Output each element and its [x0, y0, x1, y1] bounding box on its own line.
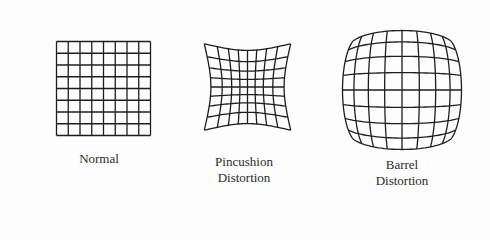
barrel-label-line2: Distortion — [362, 173, 442, 189]
pincushion-label-line2: Distortion — [204, 170, 284, 186]
normal-grid — [57, 42, 151, 136]
pincushion-label: Pincushion Distortion — [204, 154, 284, 186]
normal-label-line1: Normal — [69, 151, 129, 167]
normal-label: Normal — [69, 151, 129, 167]
barrel-label-line1: Barrel — [362, 157, 442, 173]
barrel-grid — [343, 31, 462, 150]
barrel-label: Barrel Distortion — [362, 157, 442, 189]
pincushion-grid — [204, 44, 290, 130]
pincushion-label-line1: Pincushion — [204, 154, 284, 170]
